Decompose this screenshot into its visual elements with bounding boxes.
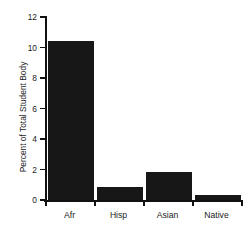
y-tick-label: 2 — [14, 165, 37, 175]
x-tick-mark — [94, 200, 96, 206]
bar-hisp — [97, 187, 142, 200]
y-tick-mark — [40, 77, 46, 79]
y-tick-mark — [40, 138, 46, 140]
x-tick-mark — [143, 200, 145, 206]
x-tick-label: Hisp — [110, 210, 127, 220]
y-tick-label: 12 — [14, 12, 37, 22]
y-tick-label: 6 — [14, 104, 37, 114]
x-tick-label: Afr — [64, 210, 75, 220]
y-tick-label: 0 — [14, 195, 37, 205]
x-tick-mark — [192, 200, 194, 206]
y-tick-label: 10 — [14, 43, 37, 53]
y-tick-mark — [40, 47, 46, 49]
x-tick-mark — [241, 200, 243, 206]
bar-native — [195, 195, 240, 200]
y-tick-mark — [40, 108, 46, 110]
bar-chart: Percent of Total Student Body 024681012 … — [0, 0, 244, 232]
x-tick-label: Native — [204, 210, 228, 220]
y-tick-mark — [40, 169, 46, 171]
y-tick-mark — [40, 16, 46, 18]
x-tick-label: Asian — [157, 210, 179, 220]
y-tick-label: 4 — [14, 134, 37, 144]
y-tick-label: 8 — [14, 73, 37, 83]
bar-asian — [146, 172, 191, 200]
x-tick-mark — [45, 200, 47, 206]
bar-afr — [48, 41, 93, 200]
